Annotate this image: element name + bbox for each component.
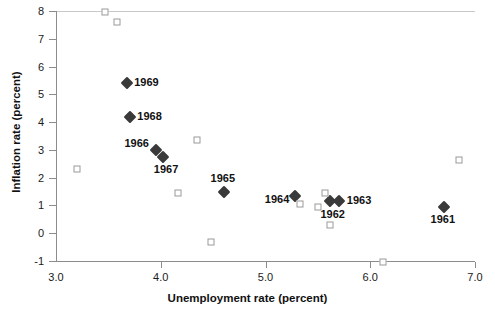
x-tick — [370, 262, 371, 268]
data-point-square — [174, 189, 181, 196]
y-tick — [49, 150, 56, 151]
y-tick — [49, 122, 56, 123]
y-tick — [49, 178, 56, 179]
data-point-square — [327, 221, 334, 228]
data-point-square — [379, 259, 386, 266]
data-point-square — [456, 156, 463, 163]
x-tick — [475, 262, 476, 268]
y-tick-label: 7 — [0, 34, 44, 45]
data-point-square — [194, 137, 201, 144]
data-point-square — [314, 203, 321, 210]
data-point-square — [208, 238, 215, 245]
y-tick — [49, 261, 56, 262]
data-point-label: 1965 — [211, 173, 235, 184]
data-point-label: 1963 — [347, 195, 371, 206]
data-point-square — [297, 201, 304, 208]
data-point-diamond — [121, 77, 134, 90]
x-tick-label: 3.0 — [36, 272, 76, 283]
y-tick-label: 8 — [0, 6, 44, 17]
y-tick — [49, 205, 56, 206]
x-tick-label: 5.0 — [246, 272, 286, 283]
data-point-square — [113, 19, 120, 26]
x-tick — [161, 262, 162, 268]
y-tick — [49, 11, 56, 12]
zero-reference-line — [56, 11, 475, 12]
data-point-label: 1967 — [154, 164, 178, 175]
data-point-square — [73, 166, 80, 173]
y-tick-label: 2 — [0, 173, 44, 184]
y-tick — [49, 67, 56, 68]
data-point-label: 1961 — [431, 214, 455, 225]
x-tick-label: 7.0 — [455, 272, 495, 283]
y-tick-label: 3 — [0, 145, 44, 156]
x-tick-label: 6.0 — [350, 272, 390, 283]
y-tick-label: 6 — [0, 62, 44, 73]
x-tick — [266, 262, 267, 268]
data-point-square — [102, 9, 109, 16]
y-tick-label: 4 — [0, 117, 44, 128]
y-axis-line — [56, 11, 57, 262]
y-tick — [49, 94, 56, 95]
data-point-label: 1968 — [137, 111, 161, 122]
data-point-label: 1962 — [320, 209, 344, 220]
x-axis-title: Unemployment rate (percent) — [0, 292, 495, 304]
data-point-label: 1969 — [134, 77, 158, 88]
plot-area: 196919681966196719651964196219631961 — [56, 11, 475, 262]
y-axis-title: Inflation rate (percent) — [10, 32, 22, 232]
y-tick — [49, 233, 56, 234]
y-tick — [49, 39, 56, 40]
x-tick-label: 4.0 — [141, 272, 181, 283]
y-tick-label: 0 — [0, 228, 44, 239]
data-point-diamond — [124, 110, 137, 123]
scatter-chart: 196919681966196719651964196219631961 876… — [0, 0, 495, 311]
y-tick-label: -1 — [0, 256, 44, 267]
data-point-diamond — [332, 195, 345, 208]
y-tick-label: 5 — [0, 89, 44, 100]
data-point-label: 1964 — [265, 194, 289, 205]
data-point-diamond — [437, 200, 450, 213]
data-point-square — [322, 189, 329, 196]
data-point-diamond — [217, 185, 230, 198]
data-point-label: 1966 — [125, 138, 149, 149]
y-tick-label: 1 — [0, 200, 44, 211]
